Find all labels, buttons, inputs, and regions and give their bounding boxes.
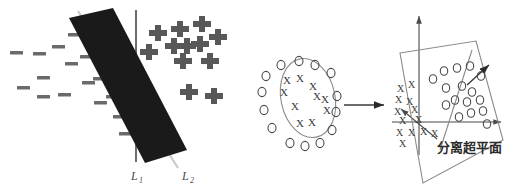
svg-text:X: X bbox=[296, 117, 304, 129]
panel-right-hyperplane-3d: X X X X X X X X X X X X X 分离超平面 bbox=[392, 16, 503, 183]
svg-text:X: X bbox=[308, 116, 316, 128]
right-o-glyph-group bbox=[429, 62, 490, 129]
separating-hyperplane-caption: 分离超平面 bbox=[437, 140, 502, 155]
label-L1: L bbox=[130, 169, 138, 183]
svg-text:X: X bbox=[397, 83, 405, 94]
svg-text:X: X bbox=[399, 138, 407, 149]
right-x-glyph-group: X X X X X X X X X X X X X bbox=[394, 79, 439, 149]
panel-left-linear-separation: L 1 L 2 bbox=[10, 8, 227, 185]
svg-text:X: X bbox=[399, 115, 407, 126]
svg-text:X: X bbox=[408, 79, 416, 90]
svg-text:X: X bbox=[296, 72, 304, 84]
plane-divider-line bbox=[440, 50, 472, 150]
svg-text:X: X bbox=[395, 94, 403, 105]
svg-text:X: X bbox=[396, 127, 404, 138]
svg-text:X: X bbox=[323, 104, 331, 116]
label-L2-subscript: 2 bbox=[190, 176, 194, 185]
label-L1-subscript: 1 bbox=[139, 176, 143, 185]
svg-text:X: X bbox=[408, 127, 416, 138]
svg-text:X: X bbox=[283, 74, 291, 86]
svg-text:X: X bbox=[415, 114, 423, 125]
decision-margin-bar bbox=[69, 8, 187, 163]
panel-middle-nonlinear-circle: X X X X X X X X X X bbox=[258, 53, 343, 150]
svg-text:X: X bbox=[431, 128, 439, 139]
svm-diagram-figure: L 1 L 2 bbox=[0, 0, 506, 191]
svg-text:X: X bbox=[291, 100, 299, 112]
svg-text:X: X bbox=[313, 90, 321, 102]
svg-text:X: X bbox=[420, 126, 428, 137]
diagram-canvas: L 1 L 2 bbox=[0, 0, 506, 191]
decision-boundary-ellipse bbox=[273, 53, 342, 142]
svg-text:X: X bbox=[280, 86, 288, 98]
label-L2: L bbox=[181, 169, 189, 183]
